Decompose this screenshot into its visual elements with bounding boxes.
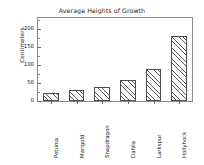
- x-axis-tick-mark: [179, 101, 180, 104]
- x-axis-tick-label: Dahlia: [130, 141, 136, 158]
- bar: [69, 90, 85, 101]
- x-axis-tick-mark: [51, 101, 52, 104]
- y-axis-tick-label: 100: [4, 61, 34, 67]
- x-axis-tick-label: Larkspur: [156, 134, 162, 158]
- x-axis-tick-label: Marigold: [79, 135, 85, 158]
- y-axis-tick-label: 50: [4, 79, 34, 85]
- bar: [171, 36, 187, 101]
- y-axis-tick-label: 150: [4, 43, 34, 49]
- x-axis-tick-label: Petunia: [53, 138, 59, 158]
- y-axis-tick-mark: [37, 101, 41, 102]
- bar: [94, 87, 110, 101]
- bar-chart: Average Heights of Growth Centimeters 05…: [0, 0, 204, 165]
- x-axis-tick-mark: [77, 101, 78, 104]
- bar: [146, 69, 162, 101]
- bar: [120, 80, 136, 101]
- x-axis-tick-mark: [154, 101, 155, 104]
- bar: [43, 93, 59, 101]
- x-axis-tick-mark: [102, 101, 103, 104]
- chart-title: Average Heights of Growth: [0, 7, 204, 14]
- x-axis-tick-label: Snapdragon: [104, 125, 110, 158]
- y-axis-tick-label: 0: [4, 97, 34, 103]
- x-axis-tick-label: Hollyhock: [181, 132, 187, 158]
- x-axis-tick-mark: [128, 101, 129, 104]
- y-axis-tick-label: 200: [4, 25, 34, 31]
- bars-layer: [38, 18, 192, 101]
